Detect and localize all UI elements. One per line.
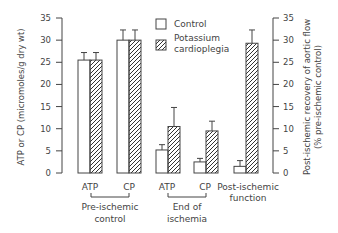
- group-bracket-end: [168, 193, 206, 197]
- legend-potassium-swatch: [156, 40, 166, 50]
- group-label-end-2: ischemia: [167, 214, 207, 224]
- chart: 05101520253035 05101520253035 Control Po…: [0, 0, 338, 233]
- legend-potassium-label-2: cardioplegia: [174, 44, 229, 54]
- right-y-axis: 05101520253035: [273, 13, 294, 178]
- group-label-pre-2: control: [94, 214, 125, 224]
- left-tick-label: 20: [40, 79, 51, 89]
- right-tick-label: 30: [283, 35, 294, 45]
- left-tick-label: 0: [46, 168, 51, 178]
- legend-control-swatch: [156, 19, 166, 29]
- group-label-pre-1: Pre-ischemic: [81, 202, 138, 212]
- category-label-post-2: function: [230, 193, 267, 203]
- left-tick-label: 35: [40, 13, 51, 23]
- group-label-end-1: End of: [173, 202, 202, 212]
- left-axis-title: ATP or CP (micromoles/g dry wt): [16, 28, 26, 165]
- right-tick-label: 35: [283, 13, 294, 23]
- bar-potassium: [168, 127, 180, 174]
- right-tick-label: 15: [283, 102, 294, 112]
- bar-control: [117, 40, 129, 173]
- right-tick-label: 20: [283, 79, 294, 89]
- right-axis-title-1: Post-ischemic recovery of aortic flow: [302, 19, 312, 175]
- bar-control: [194, 162, 206, 173]
- left-tick-label: 5: [46, 146, 51, 156]
- legend: Control Potassium cardioplegia: [156, 19, 229, 54]
- right-tick-label: 25: [283, 57, 294, 67]
- category-label-cp-end: CP: [199, 182, 211, 192]
- bar-control: [156, 150, 168, 173]
- bar-control: [78, 60, 90, 173]
- legend-potassium-label-1: Potassium: [174, 33, 220, 43]
- category-label-atp-pre: ATP: [82, 182, 99, 192]
- right-tick-label: 10: [283, 124, 294, 134]
- right-tick-label: 5: [283, 146, 288, 156]
- left-y-axis: 05101520253035: [40, 13, 62, 178]
- left-tick-label: 30: [40, 35, 51, 45]
- bar-potassium: [206, 131, 218, 173]
- left-tick-label: 10: [40, 124, 51, 134]
- legend-control-label: Control: [174, 19, 207, 29]
- bar-potassium: [90, 60, 102, 173]
- right-axis-title-2: (% pre-ischemic control): [313, 45, 323, 149]
- left-tick-label: 15: [40, 102, 51, 112]
- bars: [78, 30, 258, 173]
- bar-control: [234, 166, 246, 173]
- right-tick-label: 0: [283, 168, 288, 178]
- bar-potassium: [246, 43, 258, 173]
- category-label-cp-pre: CP: [123, 182, 135, 192]
- category-label-atp-end: ATP: [159, 182, 176, 192]
- group-bracket-pre: [91, 193, 129, 197]
- category-label-post-1: Post-ischemic: [217, 182, 279, 192]
- left-tick-label: 25: [40, 57, 51, 67]
- bar-potassium: [129, 40, 141, 173]
